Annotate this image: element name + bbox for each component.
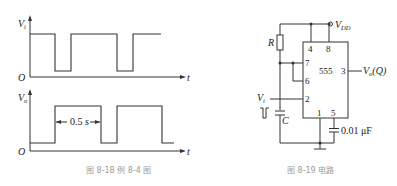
pin-2-label: 2: [305, 94, 310, 104]
resistor-icon: [277, 35, 283, 50]
vo-y-label: Vo: [18, 92, 28, 104]
vi-origin-label: O: [18, 72, 25, 83]
vi-x-label: t: [187, 72, 190, 83]
output-waveform-plot: Vo O t 0.5 s: [18, 89, 190, 157]
control-capacitor-label: 0.01 μF: [341, 125, 372, 136]
vi-input-label: Vi: [257, 92, 265, 104]
pulse-width-label: 0.5 s: [70, 116, 89, 127]
pin-3-label: 3: [341, 66, 346, 76]
vi-waveform: [30, 34, 161, 71]
vo-origin-label: O: [18, 146, 25, 157]
pin-5-label: 5: [331, 108, 336, 118]
circuit-555: VDD 4 8 7 6 2 3 1 5 555 R Vi C: [257, 19, 387, 149]
vdd-label: VDD: [335, 19, 351, 31]
vo-waveform: [30, 106, 174, 143]
pin-8-label: 8: [326, 44, 331, 54]
vi-x-axis-arrow-icon: [180, 75, 186, 79]
pin-6-label: 6: [305, 76, 310, 86]
left-arrow-icon: [56, 120, 61, 124]
diagram-canvas: Vi O t Vo O t 0.5 s 图 8-18 例 8-4 图 VDD: [0, 0, 397, 186]
pin-7-label: 7: [305, 58, 310, 68]
figure-8-19-caption: 图 8-19 电路: [287, 165, 334, 175]
vo-x-axis-arrow-icon: [180, 149, 186, 153]
chip-555-label: 555: [319, 66, 333, 76]
vo-output-label: Vo(Q): [363, 65, 387, 77]
supply-wire: [280, 24, 328, 35]
vo-y-axis-arrow-icon: [28, 89, 32, 95]
pulse-width-annotation: 0.5 s: [56, 116, 100, 127]
right-arrow-icon: [95, 120, 100, 124]
input-waveform-plot: Vi O t: [18, 15, 190, 83]
figure-8-18-caption: 图 8-18 例 8-4 图: [86, 165, 151, 175]
trigger-pulse-icon: [260, 108, 269, 118]
capacitor-c-label: C: [282, 115, 289, 126]
vo-x-label: t: [187, 146, 190, 157]
vi-y-axis-arrow-icon: [28, 15, 32, 21]
pin-1-label: 1: [317, 108, 322, 118]
vi-y-label: Vi: [18, 18, 26, 30]
pin-4-label: 4: [308, 44, 313, 54]
resistor-label: R: [267, 37, 274, 48]
